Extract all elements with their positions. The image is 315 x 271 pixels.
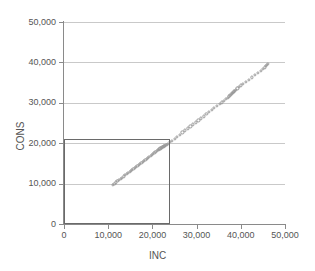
x-tick-label: 30,000 (183, 231, 211, 240)
y-tick-label: 20,000 (28, 139, 56, 148)
plot-area (64, 22, 285, 224)
y-tick-mark (59, 103, 64, 104)
y-tick-mark (59, 143, 64, 144)
x-tick-mark (152, 224, 153, 229)
scatter-points-layer (64, 22, 285, 224)
y-tick-label: 30,000 (28, 98, 56, 107)
scatter-point (266, 62, 269, 65)
y-tick-label: 40,000 (28, 58, 56, 67)
y-tick-mark (59, 22, 64, 23)
scatter-chart-figure: 010,00020,00030,00040,00050,000 010,0002… (0, 0, 315, 271)
x-tick-label: 50,000 (271, 231, 299, 240)
x-tick-mark (64, 224, 65, 229)
y-tick-label: 50,000 (28, 18, 56, 27)
y-axis-title: CONS (15, 121, 26, 150)
y-tick-mark (59, 184, 64, 185)
y-axis-line (63, 21, 64, 225)
x-tick-mark (197, 224, 198, 229)
y-tick-mark (59, 62, 64, 63)
y-tick-label: 10,000 (28, 179, 56, 188)
x-tick-label: 40,000 (227, 231, 255, 240)
x-axis-line (63, 224, 285, 225)
y-tick-label: 0 (51, 220, 56, 229)
x-tick-label: 20,000 (139, 231, 167, 240)
x-tick-label: 10,000 (94, 231, 122, 240)
x-axis-title: INC (0, 250, 315, 261)
x-tick-label: 0 (61, 231, 66, 240)
x-tick-mark (241, 224, 242, 229)
x-tick-mark (285, 224, 286, 229)
x-tick-mark (108, 224, 109, 229)
